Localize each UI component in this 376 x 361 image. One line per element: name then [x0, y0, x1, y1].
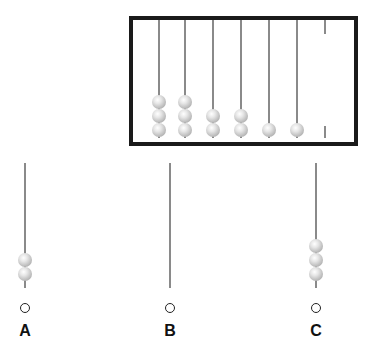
option-label-a: A: [15, 322, 35, 340]
bead-icon: [309, 239, 323, 253]
abacus-rod: [268, 20, 270, 138]
option-radio-c[interactable]: [311, 303, 321, 313]
bead-icon: [18, 267, 32, 281]
option-rod: [169, 163, 171, 288]
bead-icon: [309, 267, 323, 281]
bead-icon: [309, 253, 323, 267]
bead-icon: [206, 123, 220, 137]
bead-icon: [178, 123, 192, 137]
bead-icon: [206, 109, 220, 123]
option-radio-a[interactable]: [20, 303, 30, 313]
bead-icon: [152, 123, 166, 137]
bead-icon: [152, 109, 166, 123]
bead-icon: [18, 253, 32, 267]
bead-icon: [234, 123, 248, 137]
abacus-rod-stub-top: [324, 20, 326, 34]
bead-icon: [178, 95, 192, 109]
bead-icon: [262, 123, 276, 137]
bead-icon: [152, 95, 166, 109]
bead-icon: [178, 109, 192, 123]
abacus-rod-stub-bottom: [324, 126, 326, 138]
bead-icon: [290, 123, 304, 137]
bead-icon: [234, 109, 248, 123]
option-label-c: C: [306, 322, 326, 340]
option-radio-b[interactable]: [165, 303, 175, 313]
abacus-rod: [296, 20, 298, 138]
option-label-b: B: [160, 322, 180, 340]
